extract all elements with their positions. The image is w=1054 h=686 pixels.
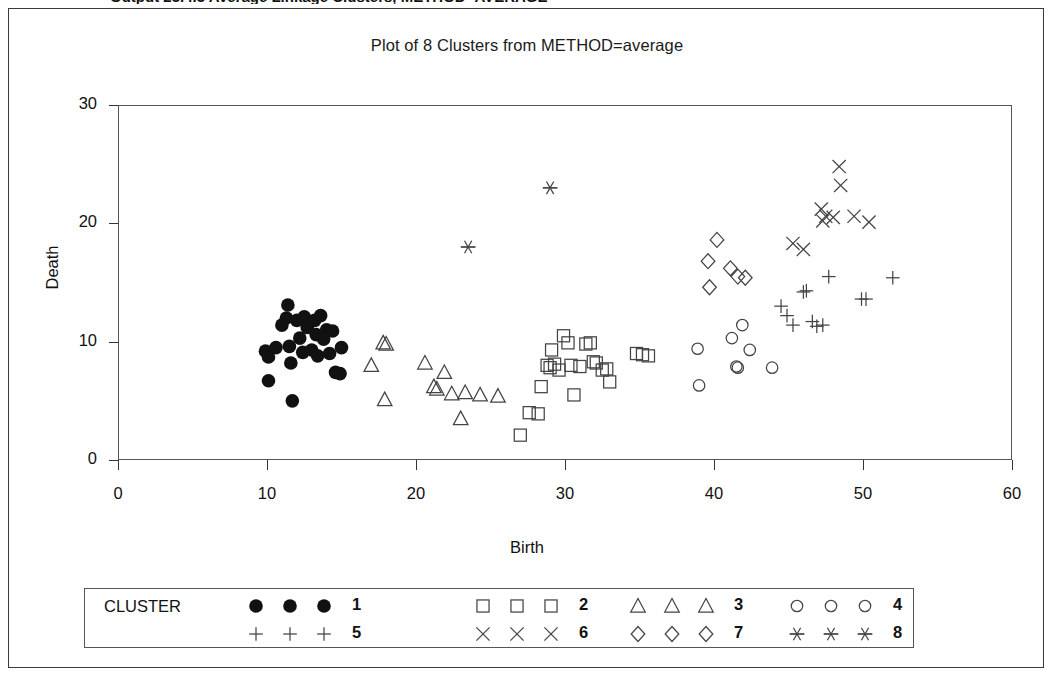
legend-symbol-filled-circle: [242, 595, 352, 617]
x-axis-label: Birth: [0, 538, 1054, 557]
x-tick-mark: [416, 460, 417, 470]
y-tick-mark: [109, 342, 118, 343]
y-tick-label: 30: [13, 94, 97, 113]
marker-filled-circle: [283, 599, 297, 613]
legend-label-3: 3: [734, 595, 743, 614]
y-tick-label: 10: [13, 331, 97, 350]
marker-circle: [791, 600, 802, 611]
marker-circle: [825, 600, 836, 611]
marker-cross: [510, 627, 523, 640]
legend-label-6: 6: [579, 623, 588, 642]
legend-label-1: 1: [352, 595, 361, 614]
x-tick-label: 10: [227, 484, 307, 503]
legend-label-2: 2: [579, 595, 588, 614]
y-tick-label: 20: [13, 212, 97, 231]
marker-plus: [317, 627, 331, 641]
marker-square: [511, 600, 523, 612]
marker-diamond: [699, 627, 713, 642]
y-tick-mark: [109, 105, 118, 106]
marker-triangle: [631, 599, 646, 613]
marker-diamond: [631, 627, 645, 642]
legend-label-8: 8: [893, 623, 902, 642]
marker-asterisk: [858, 628, 873, 641]
marker-plus: [249, 627, 263, 641]
legend-symbol-square: [469, 595, 579, 617]
y-tick-label: 0: [13, 449, 97, 468]
y-tick-mark: [109, 223, 118, 224]
marker-cross: [544, 627, 557, 640]
x-tick-label: 30: [525, 484, 605, 503]
marker-filled-circle: [317, 599, 331, 613]
x-tick-mark: [565, 460, 566, 470]
marker-cross: [476, 627, 489, 640]
x-tick-label: 50: [823, 484, 903, 503]
x-tick-mark: [714, 460, 715, 470]
marker-triangle: [665, 599, 680, 613]
x-tick-mark: [1012, 460, 1013, 470]
x-tick-mark: [118, 460, 119, 470]
legend-label-4: 4: [893, 595, 902, 614]
x-tick-label: 0: [78, 484, 158, 503]
chart-page: Output 23.4.3 Average Linkage Clusters, …: [0, 0, 1054, 686]
legend-symbol-cross: [469, 623, 579, 645]
legend-title: CLUSTER: [104, 597, 181, 616]
legend-label-5: 5: [352, 623, 361, 642]
marker-plus: [283, 627, 297, 641]
x-tick-label: 40: [674, 484, 754, 503]
chart-title: Plot of 8 Clusters from METHOD=average: [0, 36, 1054, 55]
legend-symbol-diamond: [624, 623, 734, 645]
plot-frame: [118, 105, 1012, 460]
marker-triangle: [699, 599, 714, 613]
marker-asterisk: [790, 628, 805, 641]
marker-filled-circle: [249, 599, 263, 613]
x-tick-mark: [863, 460, 864, 470]
legend-label-7: 7: [734, 623, 743, 642]
x-tick-label: 60: [972, 484, 1052, 503]
legend-symbol-asterisk: [783, 623, 893, 645]
y-tick-mark: [109, 460, 118, 461]
marker-square: [545, 600, 557, 612]
legend-symbol-plus: [242, 623, 352, 645]
x-tick-mark: [267, 460, 268, 470]
x-tick-label: 20: [376, 484, 456, 503]
legend-symbol-triangle: [624, 595, 734, 617]
marker-asterisk: [824, 628, 839, 641]
marker-square: [477, 600, 489, 612]
legend-symbol-circle: [783, 595, 893, 617]
marker-diamond: [665, 627, 679, 642]
marker-circle: [859, 600, 870, 611]
top-heading: Output 23.4.3 Average Linkage Clusters, …: [110, 0, 810, 4]
